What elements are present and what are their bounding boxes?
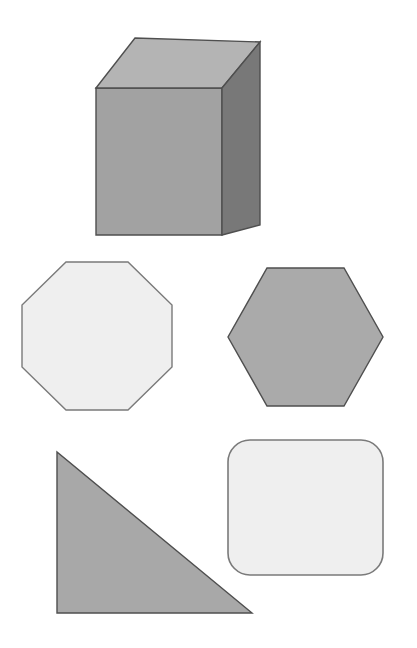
- rounded-rectangle-shape: [228, 440, 383, 575]
- cube-shape: [96, 38, 260, 235]
- shape-canvas: [0, 0, 417, 648]
- cube-front-face: [96, 88, 222, 235]
- shapes-illustration: [0, 0, 417, 648]
- octagon-shape: [22, 262, 172, 410]
